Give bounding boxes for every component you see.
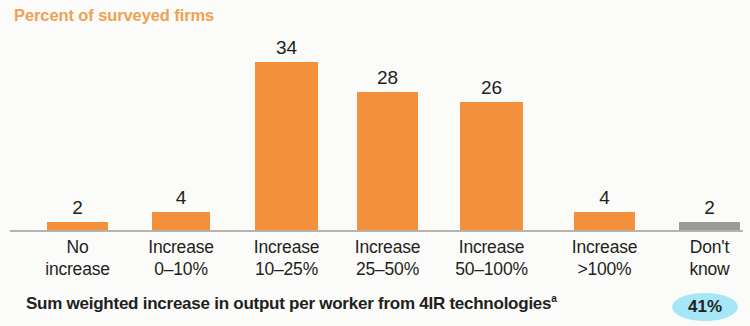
footnote-label: Sum weighted increase in output per work… (26, 294, 551, 313)
x-axis-label-line1: Increase (459, 237, 525, 257)
summary-badge: 41% (672, 293, 738, 321)
x-axis-label-line1: Increase (148, 237, 214, 257)
bar-value-label: 28 (357, 67, 418, 89)
x-axis-label-line1: Increase (254, 237, 320, 257)
x-axis-labels: NoincreaseIncrease0–10%Increase10–25%Inc… (0, 236, 750, 286)
bar-value-label: 26 (460, 77, 523, 99)
footnote-text: Sum weighted increase in output per work… (26, 294, 557, 314)
bar-3: 34 (255, 30, 318, 232)
x-axis-label-line1: No (67, 237, 89, 257)
bar-rect (460, 102, 523, 232)
x-axis-label-7: Don'tknow (640, 236, 750, 280)
bar-5: 26 (460, 30, 523, 232)
x-axis-label-line1: Don't (690, 237, 729, 257)
bar-rect (357, 92, 418, 232)
bar-value-label: 4 (152, 187, 210, 209)
bar-2: 4 (152, 30, 210, 232)
footnote-superscript: a (551, 293, 556, 304)
x-axis-label-line1: Increase (572, 237, 638, 257)
x-axis-label-line2: know (640, 258, 750, 280)
bar-rect (255, 62, 318, 232)
plot-area: 2434282642 (0, 30, 750, 232)
bar-value-label: 4 (574, 187, 635, 209)
x-axis-baseline (10, 230, 743, 232)
summary-badge-value: 41% (688, 297, 722, 317)
bar-rect (152, 212, 210, 232)
bar-rect (574, 212, 635, 232)
bar-6: 4 (574, 30, 635, 232)
chart-title: Percent of surveyed firms (14, 6, 214, 25)
bar-value-label: 2 (47, 197, 108, 219)
bar-4: 28 (357, 30, 418, 232)
bar-value-label: 2 (679, 197, 740, 219)
bar-value-label: 34 (255, 37, 318, 59)
x-axis-label-line1: Increase (355, 237, 421, 257)
chart-container: Percent of surveyed firms 2434282642 Noi… (0, 0, 750, 326)
bar-1: 2 (47, 30, 108, 232)
bar-7: 2 (679, 30, 740, 232)
